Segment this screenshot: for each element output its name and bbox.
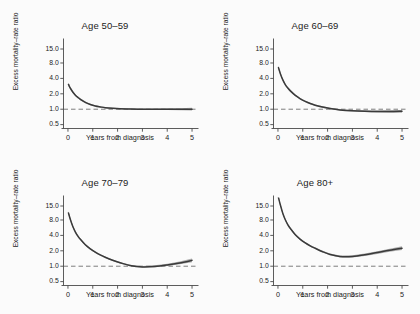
x-tick-label: 5 — [185, 133, 199, 142]
y-tick-label: 2.0 — [33, 90, 59, 97]
y-tick-label: 0.5 — [33, 277, 59, 284]
panel-age-50-59: Age 50–59 Excess mortality–rate ratio Ye… — [0, 0, 210, 157]
x-tick-label: 0 — [271, 133, 285, 142]
y-tick-label: 15.0 — [243, 202, 269, 209]
x-tick-label: 1 — [296, 133, 310, 142]
x-tick-label: 4 — [160, 290, 174, 299]
y-tick-label: 4.0 — [33, 74, 59, 81]
y-tick-label: 15.0 — [243, 45, 269, 52]
y-tick-label: 0.5 — [243, 277, 269, 284]
y-tick-label: 0.5 — [243, 120, 269, 127]
figure-small-multiples: Age 50–59 Excess mortality–rate ratio Ye… — [0, 0, 420, 314]
panel-age-80-plus: Age 80+ Excess mortality–rate ratio Year… — [210, 157, 420, 314]
y-tick-label: 8.0 — [243, 59, 269, 66]
y-tick-label: 15.0 — [33, 45, 59, 52]
y-tick-label: 15.0 — [33, 202, 59, 209]
x-tick-label: 3 — [135, 133, 149, 142]
x-tick-label: 5 — [185, 290, 199, 299]
x-tick-label: 5 — [395, 133, 409, 142]
x-tick-label: 3 — [345, 290, 359, 299]
y-tick-label: 1.0 — [33, 262, 59, 269]
y-tick-label: 2.0 — [243, 90, 269, 97]
x-tick-label: 2 — [111, 133, 125, 142]
x-tick-label: 1 — [296, 290, 310, 299]
x-tick-label: 1 — [86, 133, 100, 142]
panel-age-70-79: Age 70–79 Excess mortality–rate ratio Ye… — [0, 157, 210, 314]
x-tick-label: 2 — [111, 290, 125, 299]
x-tick-label: 5 — [395, 290, 409, 299]
x-tick-label: 4 — [370, 133, 384, 142]
x-tick-label: 0 — [61, 133, 75, 142]
y-tick-label: 1.0 — [243, 262, 269, 269]
x-tick-label: 2 — [321, 133, 335, 142]
y-tick-label: 0.5 — [33, 120, 59, 127]
x-tick-label: 2 — [321, 290, 335, 299]
x-tick-label: 3 — [135, 290, 149, 299]
y-tick-label: 4.0 — [33, 231, 59, 238]
x-tick-label: 0 — [271, 290, 285, 299]
x-tick-label: 4 — [160, 133, 174, 142]
x-tick-label: 1 — [86, 290, 100, 299]
x-tick-label: 3 — [345, 133, 359, 142]
y-tick-label: 1.0 — [33, 105, 59, 112]
y-tick-label: 4.0 — [243, 231, 269, 238]
panel-age-60-69: Age 60–69 Excess mortality–rate ratio Ye… — [210, 0, 420, 157]
y-tick-label: 2.0 — [33, 247, 59, 254]
x-tick-label: 0 — [61, 290, 75, 299]
y-tick-label: 8.0 — [33, 59, 59, 66]
y-tick-label: 1.0 — [243, 105, 269, 112]
y-tick-label: 8.0 — [243, 216, 269, 223]
x-tick-label: 4 — [370, 290, 384, 299]
y-tick-label: 4.0 — [243, 74, 269, 81]
y-tick-label: 8.0 — [33, 216, 59, 223]
y-tick-label: 2.0 — [243, 247, 269, 254]
